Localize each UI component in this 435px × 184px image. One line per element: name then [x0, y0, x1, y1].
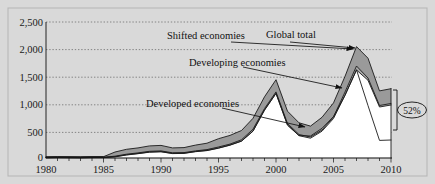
- area-chart: 2,500 2,000 1,500 1,000 500 0 1980 1985 …: [0, 0, 435, 184]
- x-tick-label-2005: 2005: [323, 164, 344, 175]
- x-tick-label-2000: 2000: [266, 164, 287, 175]
- y-tick-label-1000: 1,000: [19, 99, 43, 110]
- x-tick-label-1995: 1995: [208, 164, 229, 175]
- annotation-developing-economies: Developing economies: [189, 57, 286, 68]
- x-tick-label-2010: 2010: [381, 164, 402, 175]
- callout-label: 52%: [403, 106, 421, 116]
- x-tick-label-1985: 1985: [93, 164, 114, 175]
- y-tick-label-2000: 2,000: [19, 44, 43, 55]
- annotation-developed-economies: Developed economies: [146, 98, 239, 109]
- annotation-shifted-economies: Shifted economies: [167, 30, 245, 41]
- y-tick-label-1500: 1,500: [19, 72, 43, 83]
- annotation-global-total: Global total: [266, 29, 316, 40]
- y-tick-label-0: 0: [38, 152, 43, 163]
- chart-figure: 2,500 2,000 1,500 1,000 500 0 1980 1985 …: [0, 0, 435, 184]
- y-tick-label-500: 500: [27, 127, 43, 138]
- x-tick-label-1980: 1980: [36, 164, 57, 175]
- y-tick-label-2500: 2,500: [19, 17, 43, 28]
- x-tick-label-1990: 1990: [151, 164, 172, 175]
